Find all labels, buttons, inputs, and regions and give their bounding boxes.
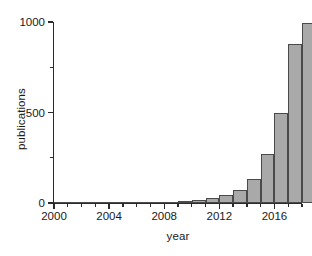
- bar-2015: [261, 154, 275, 203]
- x-tick-2002: [81, 204, 82, 207]
- x-tick-2009: [177, 204, 178, 207]
- x-tick-2010: [191, 204, 192, 207]
- x-tick-2011: [205, 204, 206, 207]
- bar-2006: [137, 202, 151, 203]
- y-axis-line: [53, 22, 54, 204]
- y-tick-1000: 1000: [48, 21, 53, 22]
- x-tick-2006: [136, 204, 137, 207]
- y-tick-minor-750: [50, 67, 53, 68]
- bar-2009: [178, 201, 192, 203]
- bar-2017: [288, 44, 302, 203]
- x-axis-title: year: [54, 230, 302, 242]
- x-tick-2008: [164, 204, 165, 209]
- x-tick-label-2012: 2012: [207, 210, 233, 222]
- x-tick-label-2000: 2000: [41, 210, 67, 222]
- y-tick-label-1000: 1000: [19, 16, 45, 28]
- x-tick-2007: [150, 204, 151, 207]
- x-tick-2013: [232, 204, 233, 207]
- bar-2011: [206, 198, 220, 203]
- bar-2013: [233, 190, 247, 203]
- plot-area: 05001000 20002004200820122016: [54, 22, 302, 203]
- x-tick-2001: [67, 204, 68, 207]
- x-tick-2004: [108, 204, 109, 209]
- x-tick-2015: [260, 204, 261, 207]
- bar-2004: [109, 202, 123, 203]
- bar-2003: [95, 202, 109, 203]
- x-tick-2005: [122, 204, 123, 207]
- bar-2007: [150, 202, 164, 203]
- bar-2010: [192, 200, 206, 203]
- bar-2000: [54, 202, 68, 203]
- x-tick-2012: [219, 204, 220, 209]
- x-tick-2000: [53, 204, 54, 209]
- x-tick-label-2016: 2016: [262, 210, 288, 222]
- bar-2014: [247, 179, 261, 203]
- y-axis-title: publications: [14, 24, 28, 214]
- bar-2005: [123, 202, 137, 203]
- bar-2018: [302, 23, 312, 203]
- bar-2012: [219, 195, 233, 203]
- y-tick-500: 500: [48, 112, 53, 113]
- x-tick-2017: [288, 204, 289, 207]
- y-tick-label-500: 500: [26, 107, 45, 119]
- x-tick-2014: [246, 204, 247, 207]
- y-tick-0: 0: [48, 202, 53, 203]
- bar-2002: [82, 202, 96, 203]
- bar-2016: [274, 113, 288, 204]
- x-tick-label-2008: 2008: [151, 210, 177, 222]
- x-tick-label-2004: 2004: [96, 210, 122, 222]
- y-tick-label-0: 0: [39, 197, 45, 209]
- x-tick-2003: [95, 204, 96, 207]
- bar-2008: [164, 202, 178, 203]
- publications-per-year-bar-chart: publications year 05001000 2000200420082…: [0, 0, 312, 256]
- x-tick-2016: [274, 204, 275, 209]
- bar-2001: [68, 202, 82, 203]
- y-tick-minor-250: [50, 157, 53, 158]
- x-tick-2018: [301, 204, 302, 207]
